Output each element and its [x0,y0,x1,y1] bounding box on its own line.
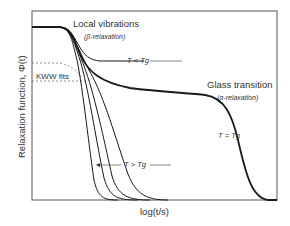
label-local-vibrations: Local vibrations [73,18,139,29]
label-t-below-tg: T < Tg [127,56,150,65]
label-glass-transition: Glass transition [207,79,272,90]
relaxation-diagram: Local vibrations (β-relaxation) T < Tg K… [0,0,290,226]
left-arrow-icon [96,163,100,167]
label-t-above-tg: T > Tg [124,160,147,169]
y-axis-label: Relaxation function, Φ(t) [16,55,27,158]
label-beta-relaxation: (β-relaxation) [84,33,125,41]
curve-t-equals-tg [32,27,277,200]
label-t-equals-tg: T = Tg [218,131,241,140]
label-alpha-relaxation: (α-relaxation) [217,94,258,102]
plot-frame [32,11,277,200]
curve-t-above-tg-1 [32,27,118,200]
curve-t-above-tg-4 [32,27,168,200]
curve-t-above-tg-3 [32,27,150,200]
x-axis-label: log(t/s) [140,206,169,217]
label-kww-fits: KWW fits [36,72,69,81]
